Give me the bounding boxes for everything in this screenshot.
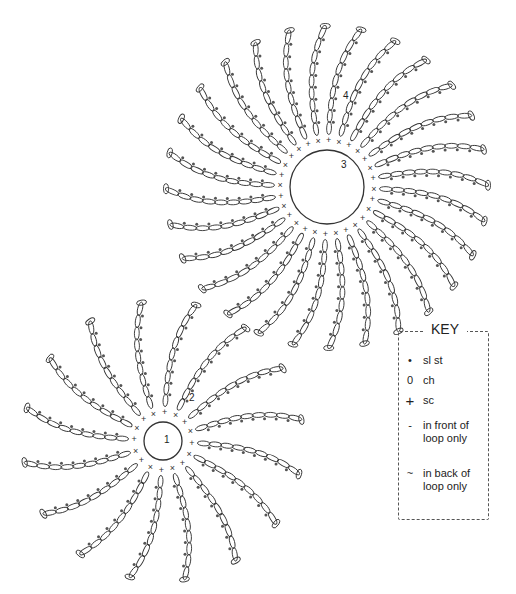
svg-text:×: ×: [283, 160, 288, 170]
svg-text:+: +: [131, 434, 136, 444]
svg-text:+: +: [180, 458, 185, 468]
svg-text:+: +: [189, 438, 194, 448]
svg-text:+: +: [182, 417, 187, 427]
svg-text:+: +: [343, 225, 348, 235]
svg-text:×: ×: [134, 423, 139, 433]
back-loop-tilde-icon: ~: [403, 467, 417, 480]
svg-text:×: ×: [277, 180, 282, 190]
key-title: KEY: [423, 321, 467, 337]
svg-text:×: ×: [188, 426, 193, 436]
svg-text:×: ×: [352, 220, 357, 230]
round-number-label: 4: [343, 90, 349, 101]
svg-text:+: +: [139, 455, 144, 465]
svg-text:×: ×: [371, 184, 376, 194]
sl-st-dot-icon: •: [403, 354, 417, 367]
large-motif: +×+×+×+×+×+×+×+×+×+×+×+×+×+×34: [163, 23, 490, 350]
svg-text:×: ×: [333, 228, 338, 238]
svg-text:×: ×: [355, 146, 360, 156]
front-loop-dash-icon: -: [403, 419, 417, 432]
svg-text:+: +: [287, 210, 292, 220]
svg-text:+: +: [326, 135, 331, 145]
svg-text:×: ×: [148, 462, 153, 472]
svg-text:×: ×: [367, 163, 372, 173]
sc-plus-icon: +: [403, 394, 417, 407]
svg-text:×: ×: [151, 409, 156, 419]
svg-text:+: +: [303, 224, 308, 234]
svg-text:+: +: [305, 139, 310, 149]
svg-text:×: ×: [294, 218, 299, 228]
svg-text:+: +: [360, 213, 365, 223]
svg-text:×: ×: [312, 227, 317, 237]
symbol-key: KEY • sl st 0 ch + sc - in front of loop…: [398, 331, 489, 520]
svg-text:+: +: [289, 151, 294, 161]
svg-text:+: +: [323, 229, 328, 239]
svg-text:×: ×: [170, 463, 175, 473]
svg-text:×: ×: [315, 136, 320, 146]
svg-text:+: +: [141, 414, 146, 424]
svg-text:×: ×: [336, 137, 341, 147]
svg-text:+: +: [279, 170, 284, 180]
svg-text:×: ×: [133, 446, 138, 456]
svg-text:×: ×: [366, 204, 371, 214]
svg-text:+: +: [371, 173, 376, 183]
round-number-label: 1: [164, 434, 170, 445]
svg-text:+: +: [278, 191, 283, 201]
svg-text:+: +: [159, 465, 164, 475]
svg-text:×: ×: [186, 449, 191, 459]
svg-text:×: ×: [281, 201, 286, 211]
small-motif: +×+×+×+×+×+×+×+×12: [21, 299, 304, 582]
round-number-label: 2: [189, 392, 195, 403]
round-number-label: 3: [341, 159, 347, 170]
svg-text:+: +: [162, 407, 167, 417]
svg-text:+: +: [346, 140, 351, 150]
svg-text:×: ×: [173, 410, 178, 420]
svg-text:×: ×: [296, 144, 301, 154]
svg-text:+: +: [370, 194, 375, 204]
ch-oval-icon: 0: [403, 374, 417, 387]
